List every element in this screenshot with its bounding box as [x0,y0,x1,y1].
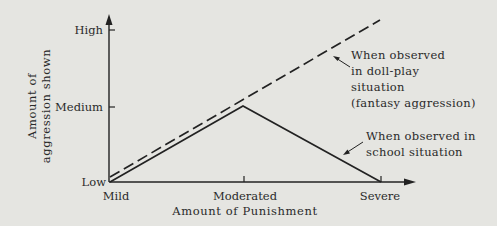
x-axis-title: Amount of Punishment [171,204,317,218]
x-tick-label-severe: Severe [360,189,400,203]
y-tick-label-low: Low [82,175,107,189]
series-doll-play-line [110,20,380,177]
x-tick-label-mild: Mild [103,189,130,203]
y-axis-title: Amount of aggression shown [25,49,53,163]
annotation-doll-play-line-3: situation [351,80,405,94]
chart-canvas: High Medium Low Mild Moderated Severe Am… [0,0,497,226]
annotation-doll-play-line-2: in doll-play [351,64,419,78]
y-tick-label-medium: Medium [55,100,103,114]
annotation-doll-play-line-4: (fantasy aggression) [351,96,476,110]
annotation-school-arrow-icon [343,150,350,156]
y-tick-label-high: High [75,23,104,37]
y-axis-title-line-2: aggression shown [39,49,53,163]
x-axis [109,176,416,186]
x-axis-arrow-icon [404,179,416,186]
chart: High Medium Low Mild Moderated Severe Am… [0,0,497,226]
annotation-doll-play: When observed in doll-play situation (fa… [333,48,476,110]
y-axis [106,14,116,182]
y-axis-arrow-icon [106,14,113,25]
annotation-school: When observed in school situation [343,129,476,159]
annotation-doll-play-line-1: When observed [351,48,445,62]
annotation-school-line-2: school situation [366,145,463,159]
y-axis-title-line-1: Amount of [25,73,39,140]
x-tick-label-moderated: Moderated [213,189,278,203]
annotation-school-line-1: When observed in [366,129,476,143]
series-school-line [110,106,381,182]
